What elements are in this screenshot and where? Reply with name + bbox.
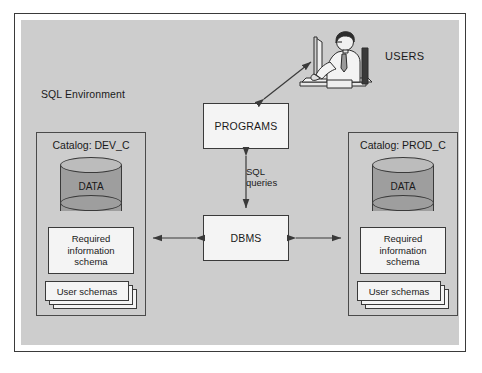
- catalog-prod-title: Catalog: PROD_C: [349, 139, 457, 151]
- sql-environment-diagram: SQL Environment Catalog: DEV_C DATA Requ…: [0, 0, 482, 373]
- catalog-dev-title: Catalog: DEV_C: [37, 139, 145, 151]
- catalog-prod-data-label: DATA: [372, 181, 434, 192]
- ris-line-1: Required: [72, 233, 111, 245]
- catalog-dev-user-schemas-stack: User schemas: [45, 281, 137, 309]
- dbms-box: DBMS: [203, 215, 289, 261]
- catalog-dev-user-schemas-label: User schemas: [45, 281, 129, 301]
- users-label: USERS: [385, 50, 424, 62]
- cylinder-bottom-ellipse: [60, 195, 122, 211]
- ris-line-1: Required: [384, 233, 423, 245]
- catalog-prod-user-schemas-stack: User schemas: [357, 281, 449, 309]
- ris-line-2: information: [68, 245, 115, 257]
- ris-line-2: information: [380, 245, 427, 257]
- catalog-prod-container: Catalog: PROD_C DATA Required informatio…: [348, 132, 458, 316]
- database-cylinder-icon-prod: DATA: [372, 157, 434, 219]
- ris-line-3: schema: [386, 256, 419, 268]
- cylinder-bottom-ellipse: [372, 195, 434, 211]
- catalog-dev-container: Catalog: DEV_C DATA Required information…: [36, 132, 146, 316]
- ris-line-3: schema: [74, 256, 107, 268]
- cylinder-top-ellipse: [372, 157, 434, 173]
- sql-environment-label: SQL Environment: [41, 88, 125, 100]
- catalog-dev-required-information-schema: Required information schema: [48, 227, 134, 274]
- programs-box: PROGRAMS: [203, 103, 289, 149]
- cylinder-top-ellipse: [60, 157, 122, 173]
- sql-queries-link-label: SQL queries: [246, 166, 316, 188]
- catalog-dev-data-label: DATA: [60, 181, 122, 192]
- sql-queries-line-2: queries: [246, 177, 316, 188]
- catalog-prod-required-information-schema: Required information schema: [360, 227, 446, 274]
- sql-queries-line-1: SQL: [246, 166, 316, 177]
- database-cylinder-icon-dev: DATA: [60, 157, 122, 219]
- catalog-prod-user-schemas-label: User schemas: [357, 281, 441, 301]
